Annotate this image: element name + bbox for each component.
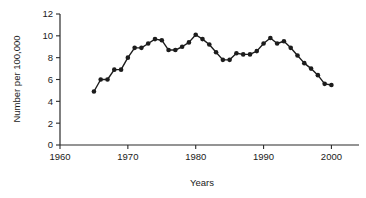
data-point [261, 41, 266, 46]
x-axis-title: Years [190, 177, 214, 188]
x-axis-tick-label: 1980 [185, 151, 206, 162]
data-point [329, 83, 334, 88]
data-point [214, 50, 219, 55]
data-point [119, 67, 124, 72]
y-axis-tick-label: 0 [48, 139, 53, 150]
data-point [282, 39, 287, 44]
y-axis-tick-label: 6 [48, 74, 53, 85]
y-axis-title: Number per 100,000 [11, 35, 22, 122]
y-axis: 024681012 [42, 8, 60, 150]
data-point [92, 89, 97, 94]
line-chart: 024681012 19601970198019902000 Number pe… [0, 0, 366, 198]
data-point [98, 77, 103, 82]
data-point [180, 44, 185, 49]
data-point [302, 61, 307, 66]
data-point [268, 36, 273, 41]
data-point [193, 32, 198, 37]
data-point [139, 46, 144, 51]
x-axis-tick-label: 1990 [253, 151, 274, 162]
y-axis-tick-label: 8 [48, 52, 53, 63]
data-point [322, 82, 327, 87]
data-point [227, 58, 232, 63]
y-axis-tick-label: 12 [42, 8, 53, 19]
data-point [187, 40, 192, 45]
data-point [248, 52, 253, 57]
data-point [173, 48, 178, 53]
data-point [254, 49, 259, 54]
data-point [132, 46, 137, 51]
data-point [146, 41, 151, 46]
y-axis-tick-label: 10 [42, 30, 53, 41]
x-axis-tick-label: 1970 [117, 151, 138, 162]
data-point [126, 55, 131, 60]
x-axis-tick-label: 1960 [49, 151, 70, 162]
data-point [200, 37, 205, 42]
data-point [241, 52, 246, 57]
data-point [221, 58, 226, 63]
data-point [153, 37, 158, 42]
data-point [288, 46, 293, 51]
data-point [275, 41, 280, 46]
data-point [159, 38, 164, 43]
data-point [309, 66, 314, 71]
data-point [207, 42, 212, 47]
chart-canvas: 024681012 19601970198019902000 Number pe… [0, 0, 366, 198]
y-axis-tick-label: 2 [48, 118, 53, 129]
series-line [94, 35, 332, 92]
data-point [166, 48, 171, 53]
x-axis: 19601970198019902000 [49, 145, 359, 162]
data-point [105, 77, 110, 82]
y-axis-tick-label: 4 [48, 96, 53, 107]
data-point [234, 51, 239, 56]
data-point [295, 53, 300, 58]
data-series [92, 32, 334, 93]
x-axis-tick-label: 2000 [321, 151, 342, 162]
data-point [316, 73, 321, 78]
data-point [112, 67, 117, 72]
